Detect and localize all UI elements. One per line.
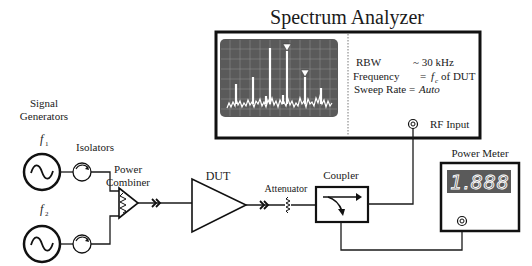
rf-input-connector-icon[interactable] (409, 120, 418, 129)
gen1-freq-sub: 1 (45, 140, 49, 148)
dut-amplifier-icon (192, 179, 246, 232)
frequency-value: of DUT (441, 70, 476, 82)
isolators-label: Isolators (76, 141, 114, 153)
test-setup-diagram: Spectrum Analyzer (0, 0, 532, 266)
frequency-eq: = (420, 70, 426, 82)
spectrum-analyzer: RBW ~ 30 kHz Frequency = f c of DUT Swee… (216, 32, 480, 138)
power-combiner-icon (119, 188, 138, 218)
coupler (316, 187, 368, 222)
power-meter-label: Power Meter (451, 147, 508, 159)
power-combiner-label-1: Power (114, 163, 142, 175)
isolator-2-icon (73, 235, 91, 253)
attenuator-icon (285, 197, 291, 213)
isolator-1-icon (73, 163, 91, 181)
frequency-label: Frequency (353, 70, 400, 82)
rbw-value: ~ 30 kHz (413, 56, 454, 68)
spectrum-screen (220, 39, 338, 117)
sweep-rate-value: Auto (418, 83, 440, 95)
sweep-rate-label: Sweep Rate = (354, 83, 415, 95)
signal-generators-label-1: Signal (30, 97, 58, 109)
dut-label: DUT (206, 169, 231, 183)
signal-generator-1-icon (24, 154, 60, 190)
coupler-label: Coupler (323, 169, 359, 181)
power-meter-input-connector-icon[interactable] (458, 217, 467, 226)
spectrum-analyzer-title: Spectrum Analyzer (270, 6, 424, 29)
gen2-freq-sub: 2 (45, 210, 49, 218)
rf-input-label: RF Input (430, 118, 469, 130)
attenuator-label: Attenuator (265, 183, 308, 194)
signal-generators-label-2: Generators (20, 110, 68, 122)
power-meter-reading: 1.888 (450, 171, 509, 193)
rbw-label: RBW (356, 56, 382, 68)
signal-generator-2-icon (24, 226, 60, 262)
power-meter: 1.888 (441, 163, 519, 231)
power-combiner-label-2: Combiner (106, 176, 150, 188)
